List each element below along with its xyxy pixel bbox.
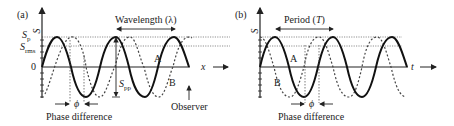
phase-difference-label-b: Phase difference: [278, 112, 344, 122]
wave-a-label: A: [154, 54, 161, 64]
x-axis-label: x: [201, 62, 205, 72]
wave-b-label-b: B: [274, 78, 281, 88]
observer-label: Observer: [171, 102, 208, 112]
wavelength-label: Wavelength (λ): [115, 15, 177, 25]
phi-label-b: ϕ: [309, 99, 314, 109]
panel-a-label: (a): [17, 10, 28, 20]
wave-b-label: B: [169, 78, 176, 88]
period-label: Period (T): [284, 15, 325, 25]
y-axis-label: S: [32, 29, 42, 34]
zero-label: 0: [31, 62, 36, 72]
y-axis-label-b: S: [250, 29, 260, 34]
phase-difference-label: Phase difference: [46, 112, 112, 122]
srms-label: Srms: [20, 42, 36, 55]
wave-a-label-b: A: [290, 54, 297, 64]
spp-label: Spp: [119, 79, 131, 92]
t-axis-label: t: [411, 62, 414, 72]
wave-diagram: [0, 0, 454, 126]
phi-label: ϕ: [74, 99, 79, 109]
panel-b-label: (b): [235, 10, 247, 20]
